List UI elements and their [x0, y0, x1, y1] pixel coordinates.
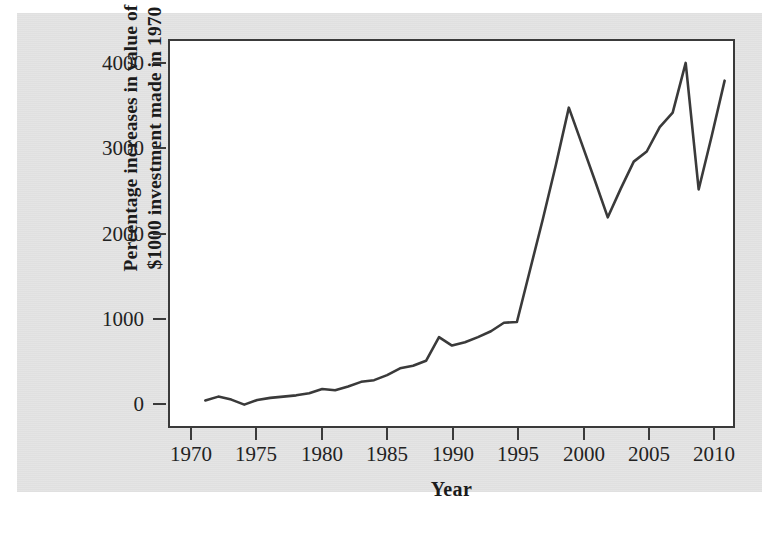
- x-tick-mark-1995: [517, 428, 519, 440]
- y-tick-mark-0: [153, 403, 166, 405]
- y-axis-ticks: 4000 3000 2000 1000 0: [78, 0, 144, 537]
- y-tick-mark-4000: [153, 62, 166, 64]
- y-tick-label-1000: 1000: [78, 309, 144, 330]
- y-tick-mark-1000: [153, 318, 166, 320]
- investment-growth-line: [205, 63, 724, 405]
- x-tick-mark-1990: [452, 428, 454, 440]
- x-tick-mark-1980: [321, 428, 323, 440]
- y-tick-label-2000: 2000: [78, 224, 144, 245]
- x-tick-mark-1985: [386, 428, 388, 440]
- figure-page: Percentage increases in value of $1000 i…: [0, 0, 773, 537]
- x-tick-mark-2000: [583, 428, 585, 440]
- x-tick-mark-2005: [648, 428, 650, 440]
- x-tick-label-2010: 2010: [674, 444, 754, 465]
- chart-figure: Percentage increases in value of $1000 i…: [0, 0, 773, 537]
- plot-area: [168, 39, 735, 428]
- x-tick-mark-1970: [190, 428, 192, 440]
- x-axis-label: Year: [168, 478, 735, 501]
- data-line-svg: [170, 41, 733, 426]
- y-tick-label-3000: 3000: [78, 138, 144, 159]
- y-axis-label-line-2: $1000 investment made in 1970: [143, 7, 167, 270]
- x-tick-mark-1975: [255, 428, 257, 440]
- y-tick-mark-2000: [153, 233, 166, 235]
- x-tick-mark-2010: [713, 428, 715, 440]
- y-tick-label-0: 0: [78, 394, 144, 415]
- y-tick-mark-3000: [153, 147, 166, 149]
- y-tick-label-4000: 4000: [78, 53, 144, 74]
